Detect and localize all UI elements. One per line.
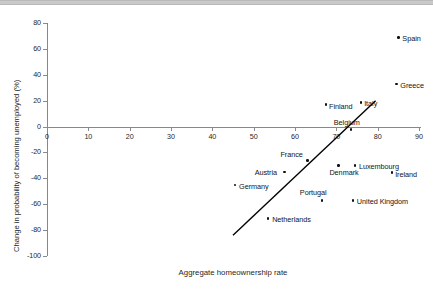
y-tick [43,75,47,76]
point-label-germany: Germany [239,182,269,191]
scatter-plot-area: 0102030405060708090806040200-20-40-60-80… [0,0,433,290]
y-tick [43,204,47,205]
x-tick-label: 0 [33,132,61,141]
data-point-greece[interactable] [395,83,398,86]
x-axis-line [47,127,421,128]
point-label-denmark: Denmark [329,168,358,177]
x-tick-label: 10 [74,132,102,141]
data-point-netherlands[interactable] [267,217,270,220]
point-label-belgium: Belgium [334,118,360,127]
x-tick [47,127,48,131]
point-label-greece: Greece [400,81,424,90]
x-tick [295,127,296,131]
y-tick [43,256,47,257]
y-tick-label: 60 [9,44,41,53]
data-point-portugal[interactable] [321,199,324,202]
x-tick-label: 20 [116,132,144,141]
x-tick [254,127,255,131]
x-tick [88,127,89,131]
y-tick [43,230,47,231]
y-tick-label: 80 [9,18,41,27]
point-label-spain: Spain [402,34,420,43]
x-tick-label: 40 [198,132,226,141]
x-tick-label: 60 [281,132,309,141]
x-tick-label: 90 [405,132,433,141]
point-label-ireland: Ireland [395,170,417,179]
point-label-finland: Finland [329,102,353,111]
y-tick [43,152,47,153]
y-tick [43,101,47,102]
y-tick [43,23,47,24]
point-label-netherlands: Netherlands [272,215,311,224]
point-label-united-kingdom: United Kingdom [357,197,408,206]
data-point-france[interactable] [306,159,309,162]
data-point-luxembourg[interactable] [354,164,357,167]
x-tick [419,127,420,131]
x-tick-label: 50 [240,132,268,141]
chart-figure: 0102030405060708090806040200-20-40-60-80… [0,0,433,290]
data-point-denmark[interactable] [337,164,340,167]
x-tick-label: 30 [157,132,185,141]
x-tick [378,127,379,131]
data-point-ireland[interactable] [391,171,394,174]
data-point-belgium[interactable] [350,128,353,131]
point-label-italy: Italy [364,99,377,108]
x-tick-label: 70 [322,132,350,141]
data-point-germany[interactable] [234,184,237,187]
x-tick [171,127,172,131]
point-label-france: France [280,150,302,159]
x-tick-label: 80 [364,132,392,141]
data-point-italy[interactable] [360,101,363,104]
y-tick [43,127,47,128]
y-tick-label: 40 [9,70,41,79]
y-axis-title: Change in probability of becoming unempl… [12,80,21,252]
point-label-austria: Austria [255,168,277,177]
x-tick [336,127,337,131]
data-point-united-kingdom[interactable] [352,199,355,202]
y-tick-label: -100 [9,251,41,260]
x-axis-title: Aggregate homeownership rate [47,268,419,277]
x-tick [212,127,213,131]
point-label-luxembourg: Luxembourg [359,162,399,171]
y-tick [43,178,47,179]
x-tick [130,127,131,131]
data-point-finland[interactable] [325,103,328,106]
data-point-austria[interactable] [283,171,286,174]
data-point-spain[interactable] [397,36,400,39]
point-label-portugal: Portugal [300,188,327,197]
y-tick [43,49,47,50]
